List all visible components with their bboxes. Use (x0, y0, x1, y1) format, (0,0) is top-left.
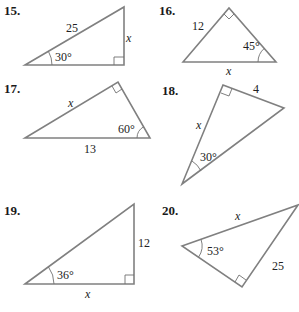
angle-arc (48, 267, 54, 284)
problem-number: 19. (4, 203, 20, 218)
side-label-leg: 12 (192, 19, 204, 33)
side-label-long-leg: x (195, 118, 202, 132)
side-label-hypotenuse: 13 (84, 142, 96, 156)
problem-number: 20. (162, 203, 178, 218)
right-angle-marker (221, 89, 232, 97)
angle-arc (137, 127, 144, 138)
right-triangle (25, 7, 124, 65)
problem-19: 19. 12 36° x (4, 203, 150, 301)
problem-number: 16. (159, 3, 175, 18)
problem-20: 20. x 53° 25 (162, 203, 298, 287)
problem-17: 17. x 60° 13 (4, 81, 150, 156)
right-angle-marker (125, 275, 134, 284)
angle-label: 60° (118, 122, 135, 136)
right-triangle (25, 204, 134, 284)
right-angle-marker (235, 275, 246, 282)
side-label-hypotenuse: x (225, 64, 232, 78)
triangle-problems-figure: 15. 25 x 30° 16. 12 45° x 17. x 60° 13 1… (0, 0, 299, 312)
angle-arc (199, 239, 203, 257)
angle-label: 36° (57, 268, 74, 282)
problem-number: 17. (4, 81, 20, 96)
side-label-leg: 25 (272, 259, 284, 273)
right-triangle (183, 8, 276, 62)
right-angle-marker (114, 57, 124, 65)
angle-arc (49, 52, 53, 66)
problem-16: 16. 12 45° x (159, 3, 276, 78)
problem-number: 15. (4, 3, 20, 18)
side-label-opposite: x (125, 31, 132, 45)
right-angle-marker (224, 14, 234, 19)
side-label-opposite: 12 (138, 236, 150, 250)
side-label-adjacent: x (84, 287, 91, 301)
side-label-short-leg: 4 (253, 82, 259, 96)
angle-label: 30° (55, 50, 72, 64)
problem-18: 18. 4 x 30° (162, 82, 284, 184)
angle-label: 53° (207, 244, 224, 258)
angle-label: 30° (200, 150, 217, 164)
side-label-leg: x (67, 96, 74, 110)
side-label-hypotenuse: x (234, 209, 241, 223)
problem-number: 18. (162, 83, 178, 98)
problem-15: 15. 25 x 30° (4, 3, 132, 65)
right-triangle (182, 85, 284, 184)
side-label-hypotenuse: 25 (66, 21, 78, 35)
angle-label: 45° (243, 39, 260, 53)
